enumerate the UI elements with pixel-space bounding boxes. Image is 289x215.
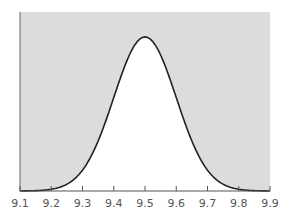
x-tick-label: 9.1 xyxy=(11,197,29,210)
x-axis: 9.19.29.39.49.59.69.79.89.9 xyxy=(11,186,279,210)
x-tick-label: 9.3 xyxy=(74,197,92,210)
x-tick-label: 9.8 xyxy=(230,197,248,210)
x-tick-label: 9.9 xyxy=(261,197,279,210)
x-tick-label: 9.5 xyxy=(136,197,154,210)
x-tick-label: 9.4 xyxy=(105,197,123,210)
x-tick-label: 9.2 xyxy=(43,197,61,210)
x-tick-label: 9.6 xyxy=(168,197,186,210)
plot-area xyxy=(20,12,270,191)
normal-curve-chart: 9.19.29.39.49.59.69.79.89.9 xyxy=(0,0,289,215)
x-tick-label: 9.7 xyxy=(199,197,217,210)
